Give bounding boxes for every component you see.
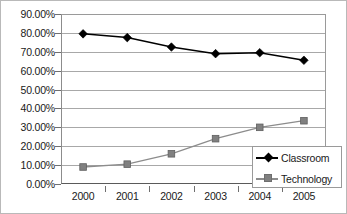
classroom-series-key <box>253 147 281 168</box>
gridline <box>62 52 325 53</box>
x-tick-mark <box>194 186 195 192</box>
y-tick-label: 30.00% <box>21 121 55 133</box>
line-chart: 90.00%80.00%70.00%60.00%50.00%40.00%30.0… <box>0 0 347 214</box>
legend-item-classroom: Classroom <box>253 147 341 168</box>
x-tick-label: 2002 <box>160 190 183 202</box>
x-tick-label: 2000 <box>72 190 95 202</box>
gridline <box>62 71 325 72</box>
technology-series-key <box>253 168 281 189</box>
y-tick-label: 80.00% <box>21 27 55 39</box>
y-tick-label: 50.00% <box>21 84 55 96</box>
x-tick-label: 2004 <box>248 190 271 202</box>
y-tick-mark <box>55 184 61 185</box>
chart-legend: Classroom Technology <box>252 146 342 188</box>
gridline <box>62 33 325 34</box>
gridline <box>62 90 325 91</box>
x-tick-mark <box>105 186 106 192</box>
x-tick-label: 2005 <box>293 190 316 202</box>
gridline <box>62 108 325 109</box>
y-tick-label: 90.00% <box>21 8 55 20</box>
x-tick-label: 2001 <box>116 190 139 202</box>
y-tick-label: 70.00% <box>21 46 55 58</box>
legend-label-technology: Technology <box>281 173 332 185</box>
gridline <box>62 127 325 128</box>
x-tick-mark <box>149 186 150 192</box>
square-marker-icon <box>264 174 272 182</box>
y-tick-label: 20.00% <box>21 140 55 152</box>
x-tick-label: 2003 <box>204 190 227 202</box>
y-axis: 90.00%80.00%70.00%60.00%50.00%40.00%30.0… <box>1 1 59 214</box>
legend-item-technology: Technology <box>253 168 341 189</box>
legend-label-classroom: Classroom <box>281 152 329 164</box>
x-axis: 200020012002200320042005 <box>61 186 326 214</box>
y-tick-label: 60.00% <box>21 65 55 77</box>
x-tick-mark <box>238 186 239 192</box>
y-tick-label: 10.00% <box>21 159 55 171</box>
y-tick-label: 40.00% <box>21 102 55 114</box>
diamond-marker-icon <box>263 153 273 163</box>
y-tick-label: 0.00% <box>26 178 55 190</box>
